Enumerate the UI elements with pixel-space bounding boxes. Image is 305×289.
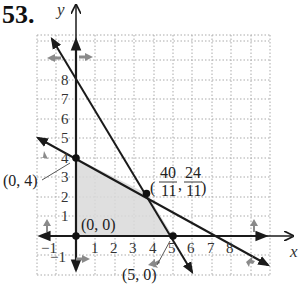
frac-y-denominator: 11 <box>186 182 201 199</box>
label-0-0: (0, 0) <box>81 216 116 234</box>
graph: y x 8 7 6 5 4 3 2 1 −1 −1 1 2 3 4 5 6 7 … <box>0 0 305 289</box>
x-tick-6: 6 <box>187 240 195 256</box>
y-tick-8: 8 <box>61 72 69 88</box>
x-axis-label: x <box>289 242 298 261</box>
x-tick-8: 8 <box>226 240 234 256</box>
y-tick-1: 1 <box>61 208 69 224</box>
y-tick-3: 3 <box>61 169 69 185</box>
x-tick-3: 3 <box>129 240 137 256</box>
y-axis-label: y <box>55 0 65 19</box>
x-tick-4: 4 <box>149 240 157 256</box>
label-40-11-24-11: ( 40 11 , 24 11 ) <box>150 164 206 199</box>
vertex-0-4 <box>72 154 80 162</box>
frac-x-denominator: 11 <box>161 182 176 199</box>
paren-close: ) <box>201 179 206 197</box>
comma: , <box>178 176 182 193</box>
x-tick-m1: −1 <box>41 240 57 256</box>
y-tick-5: 5 <box>61 130 69 146</box>
y-tick-7: 7 <box>61 91 69 107</box>
paren-open: ( <box>150 179 155 197</box>
frac-y-numerator: 24 <box>185 164 201 181</box>
y-tick-6: 6 <box>61 111 69 127</box>
x-tick-1: 1 <box>91 240 99 256</box>
y-tick-2: 2 <box>61 189 69 205</box>
vertex-5-0 <box>169 232 177 240</box>
x-tick-2: 2 <box>110 240 118 256</box>
frac-x-numerator: 40 <box>160 164 176 181</box>
vertex-0-0 <box>72 232 80 240</box>
x-tick-7: 7 <box>207 240 215 256</box>
label-0-4: (0, 4) <box>3 172 38 190</box>
x-tick-labels: −1 1 2 3 4 5 6 7 8 <box>41 240 234 256</box>
label-5-0: (5, 0) <box>122 266 157 284</box>
y-tick-4: 4 <box>61 150 69 166</box>
